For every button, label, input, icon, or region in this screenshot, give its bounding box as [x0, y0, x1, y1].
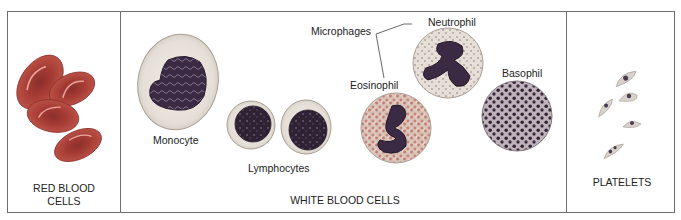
- eosinophil-label: Eosinophil: [350, 79, 398, 91]
- monocyte-label: Monocyte: [153, 134, 199, 146]
- basophil-label: Basophil: [502, 67, 542, 79]
- red-blood-cells-label-line1: RED BLOOD: [20, 182, 108, 195]
- platelets: [595, 70, 641, 159]
- red-blood-cells: [7, 47, 106, 169]
- platelets-label: PLATELETS: [580, 176, 664, 189]
- white-blood-cells-label: WHITE BLOOD CELLS: [230, 194, 460, 207]
- microphages-label: Microphages: [311, 25, 371, 37]
- red-blood-cells-label-line2: CELLS: [20, 195, 108, 208]
- microphages-leader-lines: [376, 24, 412, 78]
- neutrophil-label: Neutrophil: [428, 16, 476, 28]
- monocyte-cell: [129, 27, 227, 138]
- basophil-cell: [482, 81, 552, 151]
- red-blood-cells-label: RED BLOOD CELLS: [20, 182, 108, 208]
- lymphocytes-label: Lymphocytes: [248, 162, 309, 174]
- neutrophil-cell: [413, 28, 483, 98]
- lymphocyte-cell-1: [227, 101, 275, 149]
- eosinophil-cell: [361, 93, 431, 163]
- lymphocyte-cell-2: [281, 100, 331, 154]
